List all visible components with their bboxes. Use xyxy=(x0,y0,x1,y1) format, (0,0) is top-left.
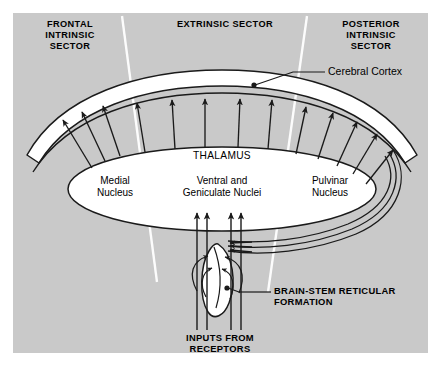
label-nucleus-medial: Medial Nucleus xyxy=(78,175,152,199)
cortex-callout-dot xyxy=(251,82,256,87)
arrow-posterior-2 xyxy=(318,113,333,159)
reticular-callout-dot xyxy=(224,285,229,290)
sector-label-extrinsic: EXTRINSIC SECTOR xyxy=(150,19,300,30)
arrow-extrinsic-2 xyxy=(172,100,175,149)
arrow-frontal-3 xyxy=(103,106,120,156)
arrow-posterior-3 xyxy=(337,122,357,166)
label-nucleus-pulvinar: Pulvinar Nucleus xyxy=(292,175,368,199)
label-cerebral-cortex: Cerebral Cortex xyxy=(328,65,402,77)
label-brain-stem-reticular-formation: BRAIN-STEM RETICULAR FORMATION xyxy=(274,285,426,307)
arrow-posterior-5 xyxy=(366,150,393,184)
label-nucleus-ventral-geniculate: Ventral and Geniculate Nuclei xyxy=(163,175,281,199)
sector-label-frontal: FRONTAL INTRINSIC SECTOR xyxy=(22,19,118,52)
label-inputs-from-receptors: INPUTS FROM RECEPTORS xyxy=(172,332,268,354)
arrow-posterior-4 xyxy=(353,134,377,174)
sector-label-posterior: POSTERIOR INTRINSIC SECTOR xyxy=(322,19,420,52)
label-thalamus: THALAMUS xyxy=(172,150,272,162)
arrow-posterior-1 xyxy=(296,107,306,154)
arrow-extrinsic-4 xyxy=(238,99,240,147)
figure-canvas: FRONTAL INTRINSIC SECTOR EXTRINSIC SECTO… xyxy=(0,0,444,372)
divider-frontal-extrinsic xyxy=(122,16,157,282)
arrow-frontal-1 xyxy=(63,120,92,168)
arrow-extrinsic-5 xyxy=(268,100,272,149)
